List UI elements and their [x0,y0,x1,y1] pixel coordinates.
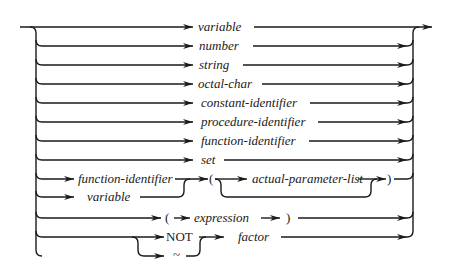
label-set: set [201,152,216,167]
alt-paren-expression: ( expression ) [36,210,413,225]
label-call-variable: variable [87,189,131,204]
alt-variable: variable [30,19,360,34]
exit-rail [360,27,432,237]
label-procedure-identifier: procedure-identifier [200,114,306,129]
label-call-function-identifier: function-identifier [78,171,174,186]
alt-set: set [36,152,413,167]
label-number: number [199,38,240,53]
label-close-paren: ) [387,171,391,186]
label-octal-char: octal-char [198,76,253,91]
alt-call: function-identifier variable ( actual-pa… [36,171,413,204]
label-not: NOT [166,229,193,244]
alt-constant-identifier: constant-identifier [36,95,413,110]
label-expr-close-paren: ) [286,210,290,225]
alt-procedure-identifier: procedure-identifier [36,114,413,129]
alt-function-identifier: function-identifier [36,133,413,148]
alt-number: number [36,38,413,53]
label-open-paren: ( [209,171,213,186]
label-string: string [199,57,230,72]
label-expr-open-paren: ( [165,210,169,225]
label-tilde: ~ [173,247,180,262]
label-expression: expression [194,210,249,225]
alt-octal-char: octal-char [36,76,413,91]
entry-rail [20,27,42,256]
alt-negation: NOT ~ factor [36,229,407,262]
label-actual-parameter-list: actual-parameter-list [252,171,363,186]
alt-string: string [36,57,413,72]
label-variable: variable [198,19,242,34]
label-constant-identifier: constant-identifier [201,95,298,110]
label-function-identifier: function-identifier [201,133,297,148]
syntax-diagram: variable number string octal-char consta… [0,0,449,274]
label-factor: factor [238,229,270,244]
